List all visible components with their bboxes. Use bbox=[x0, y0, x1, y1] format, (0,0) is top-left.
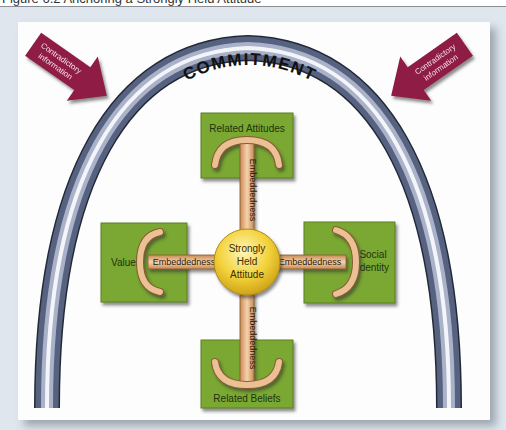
embeddedness-label-right: Embeddedness bbox=[279, 257, 342, 267]
contradictory-information-arrow-left: Contradictory information bbox=[18, 22, 123, 118]
social-identity-label-line1: Social bbox=[359, 249, 386, 260]
center-label-line3: Attitude bbox=[230, 269, 264, 280]
contradictory-information-arrow-right: Contradictory information bbox=[376, 22, 481, 118]
related-attitudes-label: Related Attitudes bbox=[209, 123, 285, 134]
embeddedness-label-top: Embeddedness bbox=[248, 159, 258, 222]
attitude-anchoring-diagram: COMMITMENT Contradictory information Con… bbox=[0, 0, 506, 430]
social-identity-label-line2: Identity bbox=[357, 262, 389, 273]
embeddedness-label-left: Embeddedness bbox=[153, 257, 216, 267]
related-beliefs-label: Related Beliefs bbox=[213, 393, 280, 404]
center-label-line2: Held bbox=[237, 256, 258, 267]
center-label-line1: Strongly bbox=[229, 243, 266, 254]
embeddedness-label-bottom: Embeddedness bbox=[248, 307, 258, 370]
